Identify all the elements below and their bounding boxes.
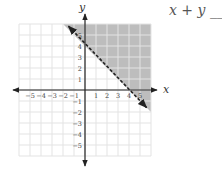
x-tick-label: 4 [127, 92, 131, 100]
inequality-graph: −5−4−3−2−112345−5−4−3−2−112345xy [0, 0, 222, 172]
y-tick-label: −3 [72, 120, 82, 128]
y-tick-label: 4 [78, 43, 82, 51]
x-tick-label: −4 [36, 92, 46, 100]
x-tick-label: −2 [58, 92, 68, 100]
x-tick-label: 1 [94, 92, 98, 100]
y-axis-label: y [78, 1, 86, 14]
y-tick-label: −4 [72, 131, 82, 139]
x-tick-label: −3 [47, 92, 57, 100]
x-tick-label: 5 [138, 92, 142, 100]
y-tick-label: −1 [72, 98, 82, 106]
y-tick-label: −2 [72, 109, 82, 117]
y-tick-label: 1 [78, 76, 82, 84]
y-tick-label: −5 [72, 142, 82, 150]
x-tick-label: 2 [105, 92, 109, 100]
y-tick-label: 2 [78, 65, 82, 73]
x-axis-label: x [163, 83, 170, 96]
y-tick-label: 5 [78, 32, 82, 40]
x-tick-label: −5 [25, 92, 35, 100]
y-tick-label: 3 [78, 54, 82, 62]
x-tick-label: 3 [116, 92, 120, 100]
